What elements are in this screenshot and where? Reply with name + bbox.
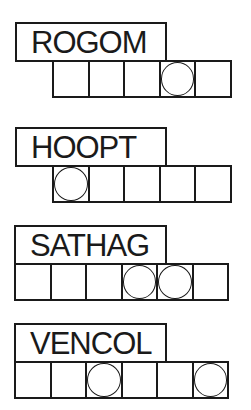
circle-marker-icon (54, 167, 88, 201)
scrambled-word-1: ROGOM (15, 22, 167, 62)
answer-cell[interactable] (194, 165, 232, 203)
answer-cell[interactable] (52, 60, 90, 98)
circle-marker-icon (194, 363, 228, 397)
answer-row-3 (14, 263, 229, 301)
answer-cell-circled[interactable] (52, 165, 90, 203)
answer-row-2 (52, 165, 232, 203)
circle-marker-icon (158, 265, 192, 299)
scrambled-word-3: SATHAG (14, 225, 167, 265)
answer-cell[interactable] (159, 165, 197, 203)
answer-cell[interactable] (88, 60, 126, 98)
answer-cell[interactable] (85, 263, 123, 301)
answer-cell[interactable] (194, 60, 232, 98)
answer-cell-circled[interactable] (121, 263, 159, 301)
circle-marker-icon (87, 363, 121, 397)
answer-cell-circled[interactable] (156, 263, 194, 301)
answer-cell[interactable] (14, 361, 52, 399)
answer-cell[interactable] (50, 263, 88, 301)
answer-row-1 (52, 60, 232, 98)
answer-cell[interactable] (123, 60, 161, 98)
scrambled-word-2: HOOPT (15, 127, 167, 167)
answer-cell[interactable] (123, 165, 161, 203)
circle-marker-icon (123, 265, 157, 299)
answer-cell[interactable] (192, 263, 230, 301)
answer-cell-circled[interactable] (192, 361, 230, 399)
answer-row-4 (14, 361, 229, 399)
answer-cell-circled[interactable] (85, 361, 123, 399)
answer-cell[interactable] (88, 165, 126, 203)
answer-cell-circled[interactable] (159, 60, 197, 98)
circle-marker-icon (161, 62, 195, 96)
answer-cell[interactable] (121, 361, 159, 399)
answer-cell[interactable] (50, 361, 88, 399)
scrambled-word-4: VENCOL (14, 323, 167, 363)
answer-cell[interactable] (14, 263, 52, 301)
answer-cell[interactable] (156, 361, 194, 399)
